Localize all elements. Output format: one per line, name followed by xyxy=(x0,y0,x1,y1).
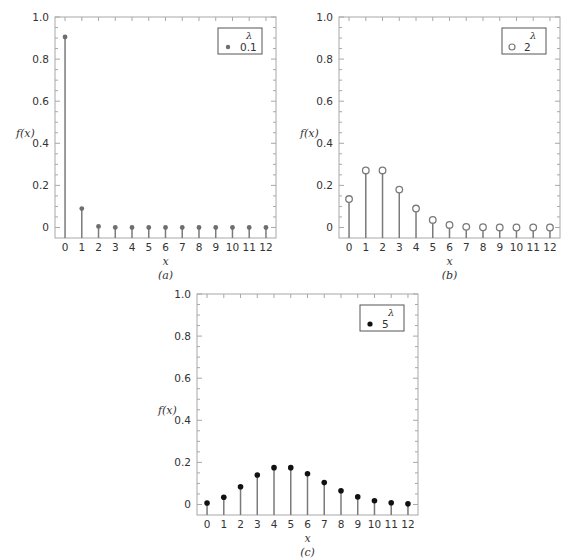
legend-value: 5 xyxy=(382,318,389,330)
legend-value: 0.1 xyxy=(240,41,257,53)
x-tick-label: 4 xyxy=(129,241,136,253)
data-point-open xyxy=(362,167,369,174)
y-axis-label: f(x) xyxy=(157,404,177,417)
data-point-filled xyxy=(238,484,244,490)
data-point-filled xyxy=(63,35,68,40)
x-tick-label: 5 xyxy=(287,518,294,530)
data-point-filled xyxy=(197,225,202,230)
legend: λ5 xyxy=(360,305,404,331)
chart-panel-b: 00.20.40.60.81.00123456789101112f(x)x(b)… xyxy=(284,0,569,280)
data-point-open xyxy=(513,224,520,231)
x-tick-label: 11 xyxy=(527,241,540,253)
x-tick-label: 10 xyxy=(510,241,523,253)
chart-panel-c: 00.20.40.60.81.00123456789101112f(x)x(c)… xyxy=(142,277,427,560)
x-tick-label: 9 xyxy=(212,241,219,253)
x-tick-label: 3 xyxy=(112,241,119,253)
data-point-open xyxy=(346,196,353,203)
x-axis-label: x xyxy=(162,255,169,268)
y-tick-label: 1.0 xyxy=(174,288,191,300)
legend-title: λ xyxy=(529,30,536,41)
data-point-filled xyxy=(355,494,361,500)
data-point-filled xyxy=(213,225,218,230)
stem-plot-a: 00.20.40.60.81.00123456789101112f(x)x(a)… xyxy=(0,0,285,280)
x-tick-label: 12 xyxy=(543,241,556,253)
x-tick-label: 8 xyxy=(338,518,345,530)
x-tick-label: 11 xyxy=(385,518,398,530)
x-tick-label: 7 xyxy=(321,518,328,530)
data-point-filled xyxy=(271,465,277,471)
x-tick-label: 10 xyxy=(368,518,381,530)
x-tick-label: 6 xyxy=(446,241,453,253)
x-tick-label: 10 xyxy=(226,241,239,253)
data-point-filled xyxy=(163,225,168,230)
data-point-filled xyxy=(247,225,252,230)
x-axis-label: x xyxy=(304,532,311,545)
x-tick-label: 5 xyxy=(145,241,152,253)
data-point-open xyxy=(463,224,470,231)
data-point-open xyxy=(413,205,420,212)
x-tick-label: 9 xyxy=(354,518,361,530)
x-tick-label: 7 xyxy=(463,241,470,253)
data-point-filled xyxy=(221,495,227,501)
legend-title: λ xyxy=(387,307,394,318)
panel-caption: (b) xyxy=(442,269,458,280)
y-tick-label: 0 xyxy=(42,221,49,233)
data-point-filled xyxy=(288,465,294,471)
legend-marker-icon xyxy=(509,44,515,50)
data-point-open xyxy=(396,186,403,193)
y-tick-label: 0.8 xyxy=(174,330,191,342)
y-tick-label: 0.6 xyxy=(316,95,333,107)
x-tick-label: 6 xyxy=(304,518,311,530)
x-tick-label: 5 xyxy=(429,241,436,253)
x-tick-label: 9 xyxy=(496,241,503,253)
data-point-filled xyxy=(388,500,394,506)
x-tick-label: 8 xyxy=(480,241,487,253)
legend-marker-icon xyxy=(367,321,372,326)
data-point-filled xyxy=(372,498,378,504)
y-tick-label: 0.2 xyxy=(316,179,333,191)
legend: λ0.1 xyxy=(218,28,262,54)
x-tick-label: 2 xyxy=(379,241,386,253)
data-point-filled xyxy=(305,471,311,477)
data-point-filled xyxy=(146,225,151,230)
y-axis-label: f(x) xyxy=(15,127,35,140)
y-tick-label: 0.8 xyxy=(32,53,49,65)
data-point-filled xyxy=(405,501,411,507)
x-tick-label: 7 xyxy=(179,241,186,253)
y-tick-label: 0 xyxy=(326,221,333,233)
panel-caption: (c) xyxy=(300,546,315,559)
y-tick-label: 0 xyxy=(184,498,191,510)
x-tick-label: 12 xyxy=(401,518,414,530)
data-point-filled xyxy=(113,225,118,230)
data-point-filled xyxy=(264,225,269,230)
x-tick-label: 1 xyxy=(220,518,227,530)
legend: λ2 xyxy=(502,28,546,54)
data-point-filled xyxy=(130,225,135,230)
x-tick-label: 2 xyxy=(95,241,102,253)
x-tick-label: 3 xyxy=(254,518,261,530)
x-tick-label: 6 xyxy=(162,241,169,253)
data-point-filled xyxy=(79,206,84,211)
legend-value: 2 xyxy=(524,41,531,53)
legend-title: λ xyxy=(245,30,252,41)
chart-panel-a: 00.20.40.60.81.00123456789101112f(x)x(a)… xyxy=(0,0,285,280)
y-tick-label: 1.0 xyxy=(316,11,333,23)
x-tick-label: 1 xyxy=(78,241,85,253)
x-tick-label: 0 xyxy=(346,241,353,253)
x-tick-label: 11 xyxy=(243,241,256,253)
data-point-open xyxy=(446,222,453,229)
x-tick-label: 4 xyxy=(271,518,278,530)
data-point-open xyxy=(547,224,554,231)
x-tick-label: 12 xyxy=(259,241,272,253)
y-tick-label: 0.2 xyxy=(174,456,191,468)
stem-plot-b: 00.20.40.60.81.00123456789101112f(x)x(b)… xyxy=(284,0,569,280)
data-point-filled xyxy=(204,500,210,506)
data-point-open xyxy=(480,224,487,231)
legend-marker-icon xyxy=(226,45,230,49)
data-point-open xyxy=(429,217,436,224)
data-point-filled xyxy=(230,225,235,230)
y-tick-label: 0.6 xyxy=(174,372,191,384)
data-point-filled xyxy=(254,472,260,478)
data-point-open xyxy=(496,224,503,231)
y-tick-label: 1.0 xyxy=(32,11,49,23)
